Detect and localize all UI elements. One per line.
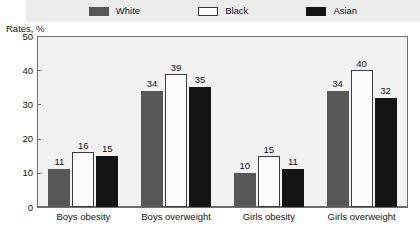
bar-value-label: 15 [264, 145, 275, 155]
bar-white-boys-overweight[interactable]: 34 [141, 91, 163, 207]
bar-groups: 111615343935101511344032 [37, 36, 408, 207]
y-tick-mark-50 [37, 36, 41, 37]
bar-black-girls-obesity[interactable]: 15 [258, 156, 280, 207]
y-tick-label-40: 40 [3, 66, 33, 75]
y-tick-label-20: 20 [3, 134, 33, 143]
y-tick-label-10: 10 [3, 168, 33, 177]
bar-value-label: 39 [171, 63, 182, 73]
bar-asian-girls-overweight[interactable]: 32 [375, 98, 397, 207]
x-axis-category-labels: Boys obesityBoys overweightGirls obesity… [37, 211, 408, 231]
bar-value-label: 16 [78, 141, 89, 151]
bar-black-boys-obesity[interactable]: 16 [72, 152, 94, 207]
y-axis-tick-labels: 50403020100 [0, 0, 33, 233]
bar-white-boys-obesity[interactable]: 11 [48, 169, 70, 207]
bar-group-boys-overweight: 343935 [141, 36, 211, 207]
x-label-girls-obesity: Girls obesity [223, 211, 316, 223]
bar-value-label: 32 [380, 86, 391, 96]
y-tick-mark-20 [37, 139, 41, 140]
bar-group-girls-overweight: 344032 [327, 36, 397, 207]
y-tick-mark-10 [37, 173, 41, 174]
x-label-girls-overweight: Girls overweight [315, 211, 408, 223]
x-label-boys-overweight: Boys overweight [130, 211, 223, 223]
bar-value-label: 15 [102, 144, 113, 154]
bar-value-label: 34 [147, 79, 158, 89]
bar-white-girls-overweight[interactable]: 34 [327, 91, 349, 207]
bar-black-girls-overweight[interactable]: 40 [351, 70, 373, 207]
bar-group-boys-obesity: 111615 [48, 36, 118, 207]
bar-value-label: 11 [54, 157, 64, 167]
bar-value-label: 40 [356, 59, 367, 69]
y-tick-mark-30 [37, 104, 41, 105]
chart-plot: 50403020100 111615343935101511344032 Boy… [0, 0, 420, 233]
x-label-boys-obesity: Boys obesity [37, 211, 130, 223]
bar-black-boys-overweight[interactable]: 39 [165, 74, 187, 207]
bar-asian-boys-obesity[interactable]: 15 [96, 156, 118, 207]
bar-value-label: 10 [240, 161, 251, 171]
bar-white-girls-obesity[interactable]: 10 [234, 173, 256, 207]
bar-value-label: 11 [288, 157, 298, 167]
bar-asian-boys-overweight[interactable]: 35 [189, 87, 211, 207]
bar-value-label: 34 [332, 79, 343, 89]
bar-group-girls-obesity: 101511 [234, 36, 304, 207]
y-tick-mark-40 [37, 70, 41, 71]
y-tick-label-30: 30 [3, 100, 33, 109]
y-tick-label-50: 50 [3, 32, 33, 41]
bar-value-label: 35 [195, 75, 206, 85]
bar-asian-girls-obesity[interactable]: 11 [282, 169, 304, 207]
y-tick-label-0: 0 [3, 203, 33, 212]
